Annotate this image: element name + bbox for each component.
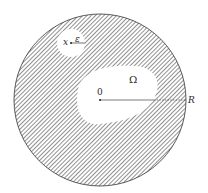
origin-label: 0 — [97, 88, 103, 97]
origin-point — [99, 99, 101, 101]
point-x-label: x — [63, 38, 68, 47]
epsilon-label: ε — [75, 35, 80, 44]
omega-label: Ω — [129, 75, 137, 85]
diagram-canvas — [0, 0, 208, 193]
radius-r-label: R — [188, 96, 195, 105]
point-x — [70, 42, 72, 44]
